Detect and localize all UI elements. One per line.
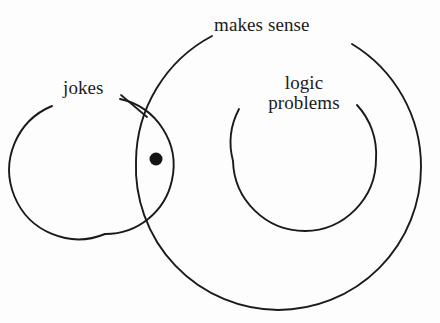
venn-diagram-svg bbox=[0, 0, 440, 323]
venn-diagram-canvas: makes sense jokes logic problems bbox=[0, 0, 440, 323]
circle-jokes bbox=[9, 99, 173, 239]
label-logic-problems-line2: problems bbox=[246, 93, 362, 113]
label-jokes: jokes bbox=[63, 78, 104, 98]
intersection-dot bbox=[150, 153, 163, 166]
label-makes-sense: makes sense bbox=[214, 15, 310, 35]
jokes-leader-line bbox=[121, 95, 147, 117]
label-logic-problems: logic problems bbox=[246, 73, 362, 113]
circle-logic-problems bbox=[231, 105, 377, 231]
label-logic-problems-line1: logic bbox=[246, 73, 362, 93]
